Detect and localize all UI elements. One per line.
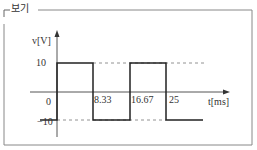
x-axis-label: t[ms] [208,97,229,107]
x-tick-16-67: 16.67 [131,95,154,105]
x-tick-25: 25 [169,95,179,105]
x-axis-arrow-icon [223,90,230,95]
y-tick-neg10: −10 [37,117,53,127]
y-axis-label: v[V] [32,36,51,46]
x-tick-8-33: 8.33 [94,95,112,105]
y-tick-0: 0 [46,97,51,107]
y-axis-arrow-icon [55,30,60,37]
y-tick-10: 10 [36,58,46,68]
chart-svg [0,0,257,150]
box-title: 보기 [10,4,30,14]
